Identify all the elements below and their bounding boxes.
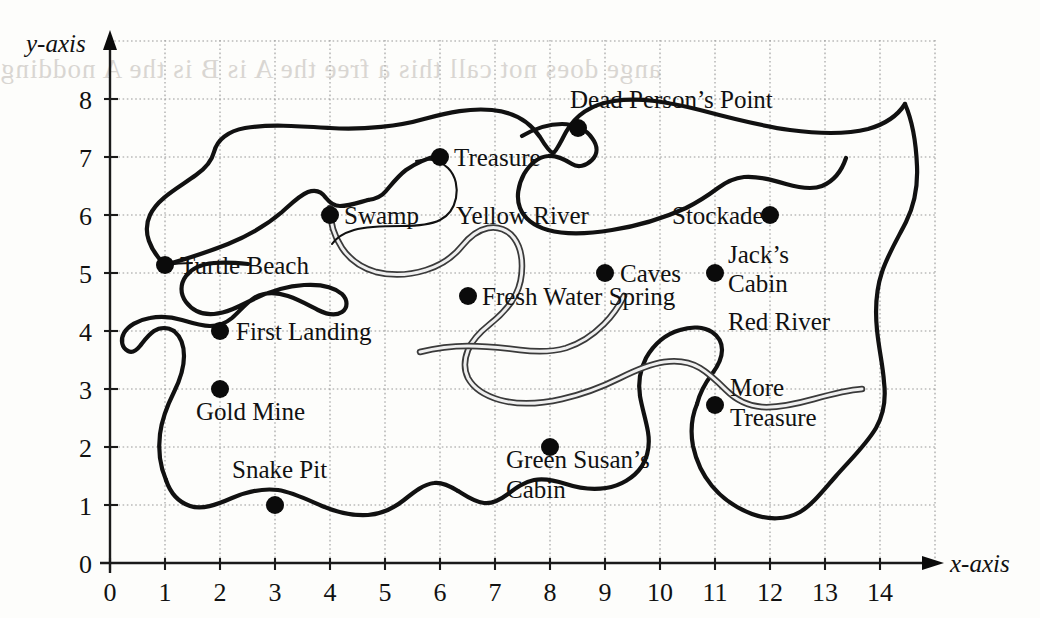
marker-first-landing[interactable] [211, 322, 229, 340]
label-yellow-river: Yellow River [456, 202, 590, 229]
coast-ridge-shoulder [368, 155, 440, 200]
x-axis-title: x-axis [949, 550, 1010, 577]
label-green-susans-cabin-line1: Green Susan’s [506, 446, 650, 473]
coast-northwest-lobe [147, 100, 905, 265]
label-treasure: Treasure [454, 144, 541, 171]
y-axis-tick-labels: 0 1 2 3 4 5 6 7 8 [79, 86, 92, 579]
y-tick-7: 7 [79, 144, 92, 173]
label-gold-mine: Gold Mine [196, 398, 305, 425]
coast-southwest [159, 331, 184, 480]
marker-snake-pit[interactable] [266, 496, 284, 514]
treasure-map-figure: Turtle Beach First Landing Gold Mine Sna… [0, 0, 1040, 618]
marker-treasure[interactable] [431, 148, 449, 166]
coast-west-lower [122, 317, 210, 352]
label-red-river: Red River [728, 308, 831, 335]
x-tick-4: 4 [324, 578, 337, 607]
y-tick-3: 3 [79, 376, 92, 405]
label-more-treasure-line2: Treasure [730, 404, 817, 431]
x-tick-5: 5 [379, 578, 392, 607]
label-jacks-cabin-line1: Jack’s [728, 241, 789, 268]
label-turtle-beach: Turtle Beach [180, 252, 309, 279]
x-tick-0: 0 [104, 578, 117, 607]
label-stockade: Stockade [672, 202, 764, 229]
y-tick-6: 6 [79, 202, 92, 231]
coast-east-upper [876, 104, 917, 382]
label-dead-persons-point: Dead Person’s Point [570, 86, 773, 113]
marker-turtle-beach[interactable] [156, 256, 174, 274]
x-tick-9: 9 [599, 578, 612, 607]
marker-gold-mine[interactable] [211, 380, 229, 398]
label-fresh-water-spring: Fresh Water Spring [482, 283, 676, 310]
marker-fresh-water-spring[interactable] [459, 287, 477, 305]
marker-swamp[interactable] [321, 206, 339, 224]
label-caves: Caves [620, 260, 681, 287]
x-tick-2: 2 [214, 578, 227, 607]
y-tick-8: 8 [79, 86, 92, 115]
y-tick-1: 1 [79, 492, 92, 521]
x-tick-11: 11 [702, 578, 727, 607]
label-first-landing: First Landing [236, 318, 372, 345]
label-more-treasure-line1: More [730, 374, 784, 401]
map-markers [156, 119, 779, 514]
marker-stockade[interactable] [761, 206, 779, 224]
x-tick-7: 7 [489, 578, 502, 607]
x-tick-10: 10 [647, 578, 673, 607]
y-tick-2: 2 [79, 434, 92, 463]
label-swamp: Swamp [344, 202, 419, 229]
y-axis-title: y-axis [23, 30, 86, 57]
label-jacks-cabin-line2: Cabin [728, 270, 788, 297]
x-axis-tick-labels: 0 1 2 3 4 5 6 7 8 9 10 11 12 13 14 [104, 578, 894, 607]
label-green-susans-cabin-line2: Cabin [506, 476, 566, 503]
x-axis-arrowhead [922, 556, 944, 570]
x-tick-14: 14 [867, 578, 893, 607]
y-tick-4: 4 [79, 318, 92, 347]
marker-dead-persons-point[interactable] [569, 119, 587, 137]
marker-jacks-cabin[interactable] [706, 264, 724, 282]
label-snake-pit: Snake Pit [232, 456, 327, 483]
y-axis-arrowhead [103, 30, 117, 50]
x-tick-13: 13 [812, 578, 838, 607]
y-tick-0: 0 [79, 550, 92, 579]
x-tick-3: 3 [269, 578, 282, 607]
x-tick-6: 6 [434, 578, 447, 607]
marker-more-treasure[interactable] [706, 396, 724, 414]
marker-caves[interactable] [596, 264, 614, 282]
y-tick-5: 5 [79, 260, 92, 289]
x-tick-8: 8 [544, 578, 557, 607]
coast-south [166, 480, 458, 515]
x-tick-12: 12 [757, 578, 783, 607]
x-tick-1: 1 [159, 578, 172, 607]
